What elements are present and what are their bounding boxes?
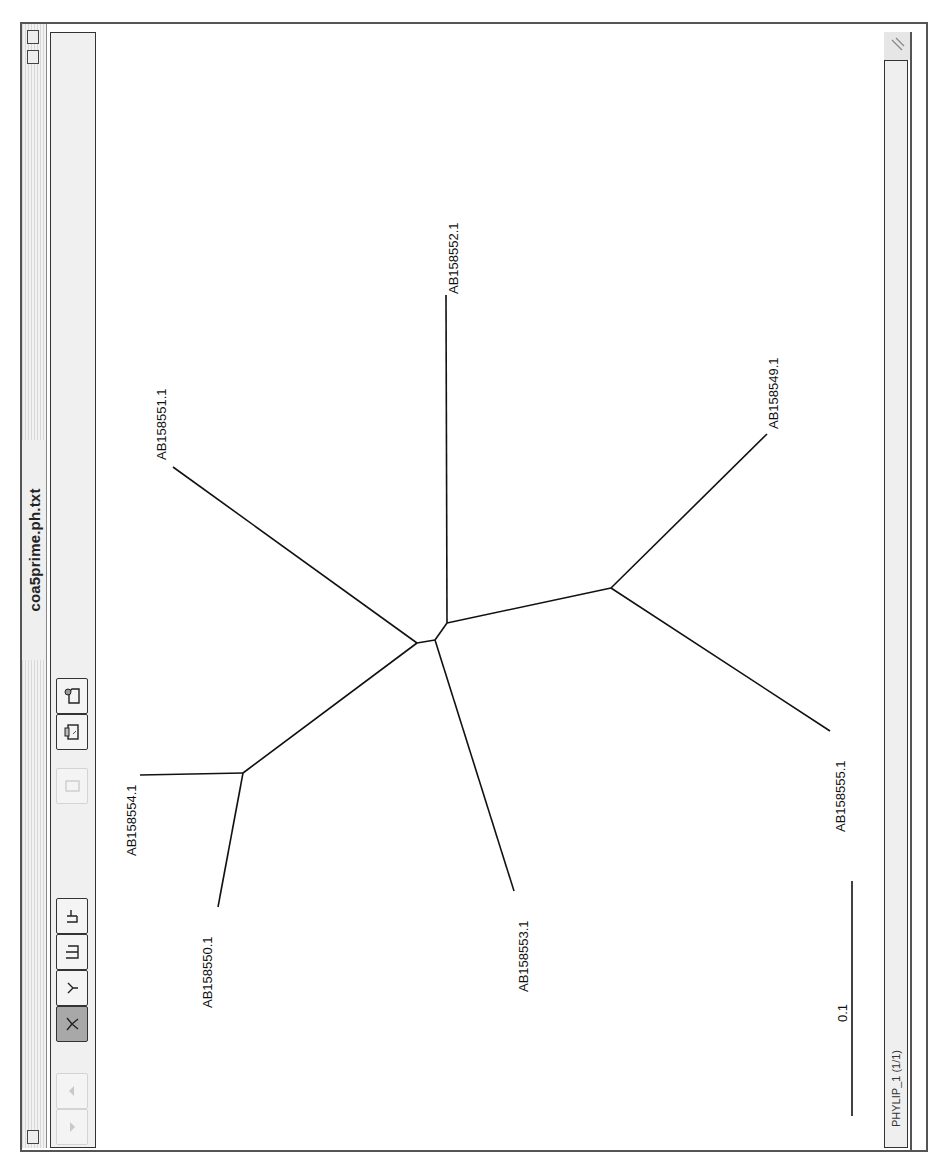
status-text: PHYLIP_1 (1/1) bbox=[890, 1050, 902, 1127]
scroll-down-button[interactable] bbox=[56, 1109, 88, 1145]
scale-bar-label: 0.1 bbox=[835, 1004, 850, 1022]
radial-tree-icon bbox=[61, 977, 83, 999]
toolbar bbox=[50, 32, 96, 1148]
tree-canvas: AB158552.1 AB158551.1 AB158549.1 AB15855… bbox=[96, 32, 910, 1148]
unrooted-tree-icon bbox=[61, 1013, 83, 1035]
leaf-label: AB158552.1 bbox=[446, 222, 461, 294]
close-box-icon[interactable] bbox=[27, 1130, 39, 1144]
branch-AB158554 bbox=[140, 773, 243, 775]
leaf-label: AB158549.1 bbox=[766, 357, 781, 429]
branch-internal bbox=[417, 640, 435, 643]
unrooted-tree-button[interactable] bbox=[56, 1006, 88, 1042]
size-box[interactable] bbox=[884, 32, 910, 60]
rectangle-tree-icon bbox=[61, 941, 83, 963]
scroll-up-button[interactable] bbox=[56, 1073, 88, 1109]
leaf-label: AB158551.1 bbox=[154, 388, 169, 460]
leaf-label: AB158553.1 bbox=[516, 920, 531, 992]
branch-AB158549 bbox=[611, 434, 767, 588]
radial-tree-button[interactable] bbox=[56, 970, 88, 1006]
document-save-icon bbox=[61, 685, 83, 707]
triangle-up-icon bbox=[61, 1080, 83, 1102]
leaf-label: AB158550.1 bbox=[200, 936, 215, 1008]
zoom-box-icon[interactable] bbox=[27, 30, 39, 44]
branch-AB158552 bbox=[446, 295, 447, 623]
window-title: coa5prime.ph.txt bbox=[26, 488, 43, 611]
copy-button[interactable] bbox=[56, 768, 88, 804]
save-graphic-button[interactable] bbox=[56, 678, 88, 714]
leaf-label: AB158555.1 bbox=[833, 760, 848, 832]
print-button[interactable] bbox=[56, 714, 88, 750]
resize-grip-icon bbox=[884, 32, 910, 60]
triangle-down-icon bbox=[61, 1116, 83, 1138]
status-bar: PHYLIP_1 (1/1) bbox=[884, 60, 908, 1148]
slanted-tree-button[interactable] bbox=[56, 898, 88, 934]
clipboard-icon bbox=[61, 775, 83, 797]
branch-internal bbox=[435, 623, 447, 640]
branch-AB158555 bbox=[611, 588, 830, 731]
branch-AB158550 bbox=[218, 773, 243, 907]
window-edge bbox=[910, 32, 912, 1152]
rectangular-tree-button[interactable] bbox=[56, 934, 88, 970]
phylogenetic-tree bbox=[96, 32, 910, 1148]
branch-AB158551 bbox=[173, 467, 417, 643]
leaf-label: AB158554.1 bbox=[124, 784, 139, 856]
title-area: coa5prime.ph.txt bbox=[22, 440, 46, 660]
branch-internal bbox=[243, 643, 417, 773]
branch-internal bbox=[447, 588, 611, 623]
branch-AB158553 bbox=[435, 640, 514, 891]
collapse-box-icon[interactable] bbox=[27, 50, 39, 64]
printer-icon bbox=[61, 721, 83, 743]
slanted-tree-icon bbox=[61, 905, 83, 927]
